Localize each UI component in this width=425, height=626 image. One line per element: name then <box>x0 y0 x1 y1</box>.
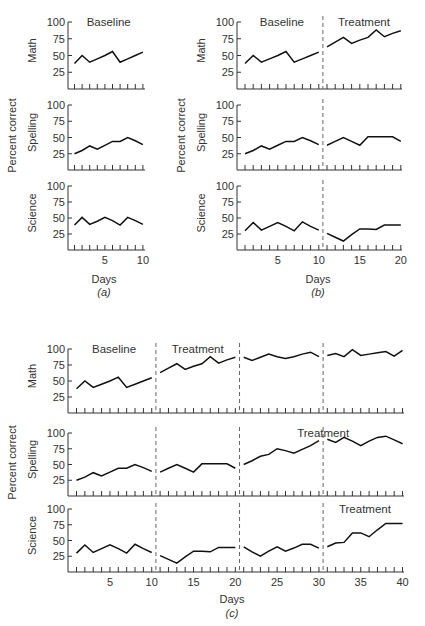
y-tick-label: 75 <box>53 443 65 455</box>
data-line <box>75 217 143 225</box>
y-tick-label: 75 <box>53 359 65 371</box>
x-tick-label: 20 <box>395 254 407 266</box>
x-tick-label: 25 <box>271 576 283 588</box>
y-tick-label: 25 <box>53 474 65 486</box>
y-tick-label: 25 <box>53 550 65 562</box>
y-tick-label: 100 <box>47 503 65 515</box>
row-math: 255075100MathBaselineTreatment <box>195 16 402 89</box>
row-title: Science <box>195 193 207 232</box>
data-line <box>75 138 143 154</box>
y-tick-label: 50 <box>222 132 234 144</box>
data-line <box>245 51 319 63</box>
y-tick-label: 25 <box>53 228 65 240</box>
y-axis-title: Percent correct <box>6 98 18 173</box>
x-tick-label: 30 <box>313 576 325 588</box>
x-tick-label: 10 <box>146 576 158 588</box>
phase-label: Baseline <box>260 16 304 28</box>
x-tick-label: 10 <box>137 254 149 266</box>
data-line <box>160 357 235 373</box>
phase-label: Treatment <box>172 343 225 355</box>
x-tick-label: 20 <box>229 576 241 588</box>
x-tick-label: 10 <box>313 254 325 266</box>
data-line <box>244 441 319 465</box>
data-line <box>160 547 235 563</box>
y-tick-label: 100 <box>216 180 234 192</box>
data-line <box>245 138 319 154</box>
chart-panel-b: 255075100MathBaselineTreatment255075100S… <box>175 16 407 298</box>
row-spelling: 255075100Spelling <box>26 99 145 170</box>
y-tick-label: 25 <box>222 228 234 240</box>
y-tick-label: 75 <box>222 33 234 45</box>
data-line <box>244 352 319 360</box>
row-title: Science <box>26 516 38 555</box>
y-tick-label: 25 <box>53 148 65 160</box>
y-axis-title: Percent correct <box>175 98 187 173</box>
row-science: 255075100Science510 <box>26 180 149 266</box>
row-title: Math <box>195 38 207 62</box>
y-tick-label: 50 <box>222 212 234 224</box>
y-tick-label: 100 <box>47 16 65 28</box>
row-spelling: 255075100SpellingTreatment <box>26 427 404 496</box>
multiple-baseline-chart: 255075100MathBaseline255075100Spelling25… <box>0 0 425 626</box>
row-title: Spelling <box>26 113 38 152</box>
data-line <box>75 51 143 63</box>
chart-panel-c: 255075100MathBaselineTreatment255075100S… <box>6 343 409 619</box>
y-tick-label: 25 <box>222 66 234 78</box>
y-tick-label: 25 <box>53 391 65 403</box>
phase-label: Baseline <box>87 16 131 28</box>
y-tick-label: 100 <box>47 180 65 192</box>
row-title: Spelling <box>195 113 207 152</box>
data-line <box>160 464 235 472</box>
data-line <box>244 544 319 556</box>
x-axis-title: Days <box>219 593 245 605</box>
phase-label: Treatment <box>338 16 391 28</box>
data-line <box>77 544 152 553</box>
y-tick-label: 100 <box>216 99 234 111</box>
data-line <box>327 350 402 357</box>
x-axis-title: Days <box>91 273 117 285</box>
row-title: Math <box>26 364 38 388</box>
row-math: 255075100MathBaseline <box>26 16 145 89</box>
y-tick-label: 50 <box>53 132 65 144</box>
x-tick-label: 35 <box>355 576 367 588</box>
row-science: 255075100Science5101520 <box>195 180 407 266</box>
y-tick-label: 100 <box>47 343 65 355</box>
x-tick-label: 5 <box>107 576 113 588</box>
y-tick-label: 50 <box>222 50 234 62</box>
y-tick-label: 75 <box>53 196 65 208</box>
panel-caption: (c) <box>226 607 239 619</box>
y-tick-label: 75 <box>222 196 234 208</box>
row-math: 255075100MathBaselineTreatment <box>26 343 404 413</box>
y-tick-label: 50 <box>53 459 65 471</box>
y-tick-label: 50 <box>53 50 65 62</box>
x-tick-label: 15 <box>187 576 199 588</box>
y-tick-label: 75 <box>53 519 65 531</box>
data-line <box>77 377 152 389</box>
phase-label: Baseline <box>92 343 136 355</box>
phase-label: Treatment <box>297 427 350 439</box>
x-tick-label: 15 <box>354 254 366 266</box>
y-tick-label: 75 <box>53 115 65 127</box>
phase-label: Treatment <box>339 503 392 515</box>
y-tick-label: 100 <box>47 427 65 439</box>
y-tick-label: 50 <box>53 535 65 547</box>
x-axis-title: Days <box>305 273 331 285</box>
row-science: 255075100ScienceTreatment510152025303540 <box>26 503 409 588</box>
y-tick-label: 25 <box>53 66 65 78</box>
x-tick-label: 40 <box>396 576 408 588</box>
row-title: Spelling <box>26 440 38 479</box>
data-line <box>327 137 401 145</box>
y-tick-label: 25 <box>222 148 234 160</box>
y-tick-label: 100 <box>47 99 65 111</box>
data-line <box>77 465 152 481</box>
y-tick-label: 50 <box>53 375 65 387</box>
y-tick-label: 50 <box>53 212 65 224</box>
x-tick-label: 5 <box>275 254 281 266</box>
y-tick-label: 75 <box>53 33 65 45</box>
x-tick-label: 5 <box>102 254 108 266</box>
data-line <box>245 222 319 231</box>
data-line <box>327 225 401 241</box>
row-spelling: 255075100Spelling <box>195 99 402 170</box>
panel-caption: (b) <box>311 286 325 298</box>
chart-panel-a: 255075100MathBaseline255075100Spelling25… <box>6 16 149 298</box>
